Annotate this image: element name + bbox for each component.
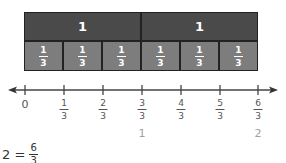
- whole-label-2: 2: [255, 127, 262, 140]
- tick-label-zero: 0: [22, 98, 29, 111]
- equation-left: 2 =: [2, 147, 25, 162]
- tick-label: 53: [216, 98, 225, 121]
- tick-label: 33: [138, 98, 147, 121]
- tick-label: 23: [99, 98, 108, 121]
- tick-label: 63: [254, 98, 263, 121]
- whole-label-1: 1: [139, 127, 146, 140]
- tick-label: 43: [177, 98, 186, 121]
- equation-fraction: 63: [29, 143, 38, 163]
- tick-label: 13: [60, 98, 69, 121]
- equation: 2 = 63: [2, 143, 38, 163]
